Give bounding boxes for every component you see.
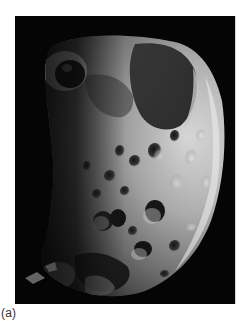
moon-photograph	[15, 16, 236, 304]
panel-label: (a)	[1, 306, 16, 320]
figure-panel: (a)	[0, 0, 249, 323]
moon-image	[15, 16, 235, 304]
